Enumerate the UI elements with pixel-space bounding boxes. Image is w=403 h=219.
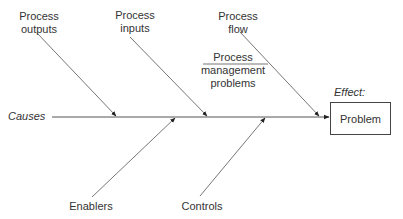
label-process-inputs: Process inputs (110, 9, 160, 35)
label-enablers: Enablers (66, 200, 116, 213)
label-process-management-problems: Process management problems (198, 51, 268, 90)
bone-process-inputs (130, 37, 207, 116)
bone-controls (200, 118, 265, 196)
label-controls: Controls (177, 200, 227, 213)
label-process-flow: Process flow (213, 10, 263, 36)
label-process-outputs: Process outputs (14, 10, 64, 36)
effect-box-label: Problem (340, 113, 381, 125)
bone-enablers (92, 118, 175, 197)
label-causes: Causes (8, 110, 48, 123)
bone-process-outputs (37, 33, 116, 116)
label-effect: Effect: (334, 86, 374, 99)
effect-box-problem: Problem (330, 102, 391, 135)
